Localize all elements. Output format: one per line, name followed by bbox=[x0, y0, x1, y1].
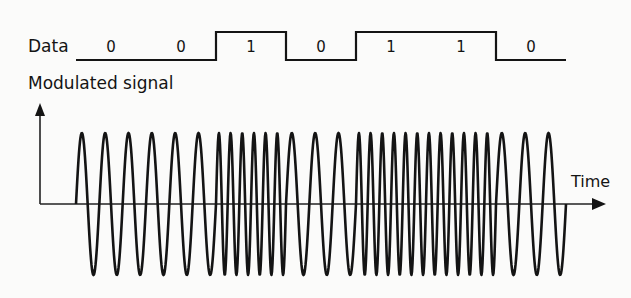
bit-label: 1 bbox=[456, 40, 466, 55]
bit-label: 0 bbox=[106, 40, 116, 55]
x-axis-arrow-icon bbox=[592, 198, 606, 210]
modulated-signal-label: Modulated signal bbox=[28, 75, 173, 92]
bit-label: 0 bbox=[176, 40, 186, 55]
data-label: Data bbox=[28, 38, 69, 55]
y-axis-arrow-icon bbox=[35, 103, 45, 116]
bit-label: 0 bbox=[526, 40, 536, 55]
bit-label: 0 bbox=[316, 40, 326, 55]
bit-label: 1 bbox=[386, 40, 396, 55]
time-axis-label: Time bbox=[571, 174, 610, 190]
bit-label: 1 bbox=[246, 40, 256, 55]
